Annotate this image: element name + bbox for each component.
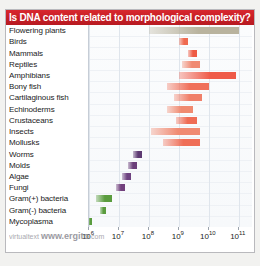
horizontal-gridline — [89, 104, 252, 105]
watermark: virtualtext www.ergito.com — [9, 231, 104, 241]
range-bar — [163, 139, 200, 146]
horizontal-gridline — [89, 36, 252, 37]
axis-tick-label: 107 — [112, 230, 124, 241]
vertical-gridline — [179, 25, 180, 227]
range-bar — [100, 207, 105, 214]
chart-title-bar: Is DNA content related to morphological … — [6, 10, 254, 25]
horizontal-gridline — [89, 148, 252, 149]
horizontal-gridline — [89, 216, 252, 217]
range-bar — [188, 50, 197, 57]
watermark-suffix: .com — [89, 233, 104, 240]
vertical-gridline — [89, 25, 90, 227]
range-bar — [133, 151, 142, 158]
range-bar — [149, 27, 239, 34]
vertical-gridline — [119, 25, 120, 227]
range-bar — [116, 184, 125, 191]
horizontal-gridline — [89, 126, 252, 127]
axis-tick-label: 109 — [172, 230, 184, 241]
horizontal-gridline — [89, 137, 252, 138]
category-label: Flowering plants — [9, 26, 86, 35]
range-bar — [122, 173, 131, 180]
category-label: Fungi — [9, 183, 86, 192]
category-label: Birds — [9, 37, 86, 46]
horizontal-gridline — [89, 193, 252, 194]
horizontal-gridline — [89, 160, 252, 161]
range-bar — [182, 61, 200, 68]
plot-area — [88, 25, 252, 227]
chart-body: Flowering plantsBirdsMammalsReptilesAmph… — [6, 25, 254, 252]
horizontal-gridline — [89, 81, 252, 82]
category-label: Mycoplasma — [9, 217, 86, 226]
axis-tick-label: 1010 — [200, 230, 216, 241]
axis-tick-label: 108 — [142, 230, 154, 241]
category-label: Worms — [9, 150, 86, 159]
range-bar — [167, 83, 209, 90]
range-bar — [176, 117, 197, 124]
category-label: Algae — [9, 172, 86, 181]
watermark-prefix: virtualtext — [9, 233, 39, 240]
range-bar — [179, 38, 188, 45]
category-label: Amphibians — [9, 71, 86, 80]
category-label: Echinoderms — [9, 105, 86, 114]
horizontal-gridline — [89, 171, 252, 172]
chart-card: Is DNA content related to morphological … — [5, 9, 255, 253]
category-label-column: Flowering plantsBirdsMammalsReptilesAmph… — [6, 25, 88, 227]
range-bar — [96, 195, 112, 202]
horizontal-gridline — [89, 92, 252, 93]
category-label: Bony fish — [9, 82, 86, 91]
x-axis: 10610710810910101011 — [88, 227, 252, 252]
range-bar — [128, 162, 137, 169]
category-label: Crustaceans — [9, 116, 86, 125]
range-bar — [167, 106, 193, 113]
horizontal-gridline — [89, 47, 252, 48]
range-bar — [88, 218, 92, 225]
category-label: Insects — [9, 127, 86, 136]
horizontal-gridline — [89, 205, 252, 206]
category-label: Cartilaginous fish — [9, 93, 86, 102]
axis-tick-label: 1011 — [230, 230, 245, 241]
vertical-gridline — [209, 25, 210, 227]
page-title: Is DNA content related to morphological … — [6, 10, 254, 25]
category-label: Gram(-) bacteria — [9, 206, 86, 215]
horizontal-gridline — [89, 115, 252, 116]
screenshot-root: Is DNA content related to morphological … — [0, 0, 260, 266]
horizontal-gridline — [89, 70, 252, 71]
range-bar — [174, 94, 202, 101]
horizontal-gridline — [89, 59, 252, 60]
vertical-gridline — [149, 25, 150, 227]
category-label: Mammals — [9, 49, 86, 58]
range-bar — [179, 72, 236, 79]
category-label: Reptiles — [9, 60, 86, 69]
horizontal-gridline — [89, 182, 252, 183]
category-label: Mollusks — [9, 138, 86, 147]
range-bar — [151, 128, 200, 135]
vertical-gridline — [239, 25, 240, 227]
category-label: Molds — [9, 161, 86, 170]
category-label: Gram(+) bacteria — [9, 194, 86, 203]
watermark-brand: www.ergito — [41, 231, 89, 241]
